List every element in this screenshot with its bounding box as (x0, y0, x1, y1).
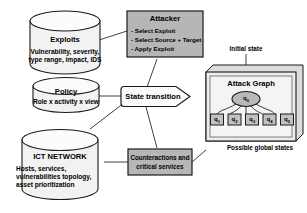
node-q5-sub: 5 (288, 119, 290, 124)
ict-network-line-1: Hosts, services, (16, 165, 104, 172)
possible-global-states-label: Possible global states (214, 144, 306, 151)
counteractions-line-2: critical services (128, 163, 192, 170)
node-q2-sub: 2 (235, 119, 237, 124)
attacker-action-3: - Apply Exploit (131, 45, 203, 53)
node-q1-sub: 1 (218, 119, 220, 124)
ict-network-title: ICT NETWORK (22, 153, 98, 162)
attack-graph-node-q0: q0 (237, 95, 255, 103)
attack-graph-node-q1: q1 (211, 116, 223, 124)
exploits-line-2: type range, impact, IDS (22, 56, 108, 63)
attack-graph-title: Attack Graph (210, 80, 292, 89)
counteractions-box (128, 149, 192, 175)
exploits-title: Exploits (30, 36, 100, 45)
attacker-action-1: - Select Exploit (131, 27, 203, 35)
exploits-line-1: Vulnerability, severity, (22, 48, 108, 55)
attacker-action-2: - Select Source + Target (131, 36, 205, 44)
ict-network-line-2: vulnerabilities topology, (16, 173, 108, 180)
ict-network-line-3: asset prioritization (16, 181, 108, 188)
attack-graph-node-q2: q2 (229, 116, 241, 124)
node-q4-sub: 4 (270, 119, 272, 124)
diagram-canvas: Exploits Vulnerability, severity, type r… (0, 0, 307, 213)
policy-title: Policy (33, 88, 99, 97)
initial-state-label: Initial state (213, 45, 279, 52)
counteractions-line-1: Counteractions and (128, 154, 192, 161)
attack-graph-node-q3: q3 (246, 116, 258, 124)
attack-graph-node-q5: q5 (281, 116, 293, 124)
attacker-title: Attacker (127, 15, 203, 24)
attack-graph-node-q4: q4 (264, 116, 276, 124)
node-q3-sub: 3 (253, 119, 255, 124)
state-transition-label: State transition (124, 93, 182, 102)
node-q0-sub: 0 (247, 98, 249, 103)
policy-line-1: Role x activity x view (28, 98, 104, 105)
